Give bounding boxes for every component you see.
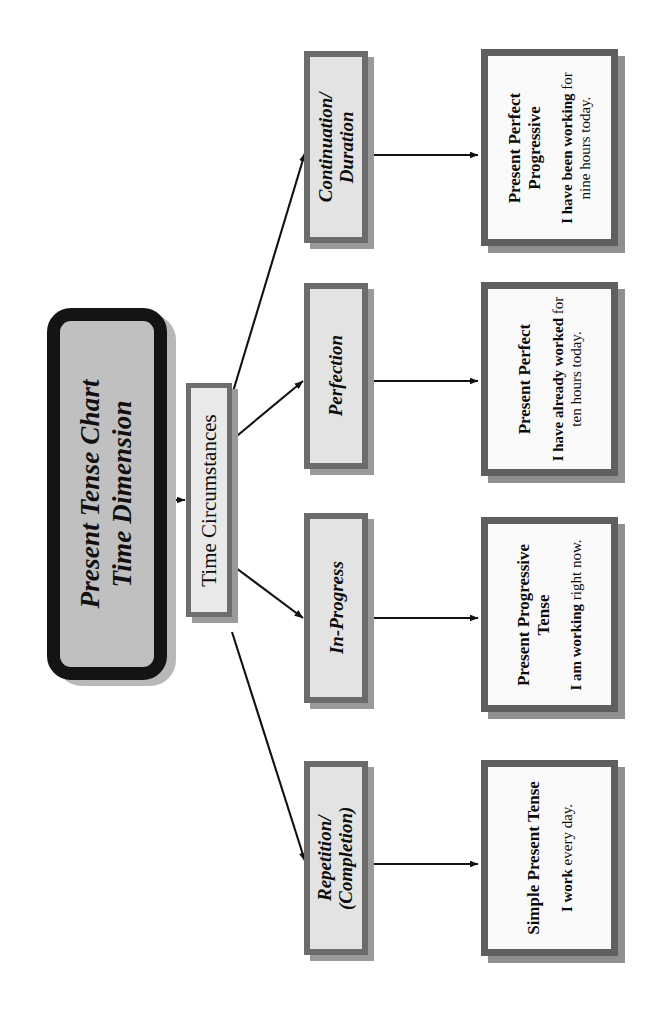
edge-root-to-inprogress [232, 565, 303, 618]
category-box-continuation: Continuation/ Duration [304, 51, 368, 243]
tense-example: I have been working for nine hours today… [558, 72, 594, 224]
category-label-line-2: Duration [336, 92, 357, 202]
category-label-line-1: Repetition/ [315, 806, 336, 909]
tense-box-content: Present Perfect I have already worked fo… [515, 297, 585, 462]
diagram-canvas: Present Tense Chart Time Dimension Time … [0, 0, 665, 1016]
root-node-label: Time Circumstances [197, 414, 222, 586]
tense-title-line-1: Simple Present Tense [524, 781, 544, 935]
tense-example-line-2: nine hours today. [576, 72, 594, 224]
tense-example-bold: I work [558, 869, 574, 912]
category-label-line-1: Continuation/ [315, 92, 336, 202]
category-box-repetition: Repetition/ (Completion) [304, 761, 368, 955]
edge-root-to-continuation [232, 153, 305, 395]
tense-example-rest: for [549, 297, 565, 318]
category-label: Perfection [325, 335, 346, 416]
category-label: Continuation/ Duration [315, 92, 358, 202]
tense-title: Present Perfect Progressive [505, 72, 544, 224]
tense-example: I am working right now. [567, 539, 585, 690]
category-box-perfection: Perfection [304, 283, 368, 469]
category-box-inprogress: In-Progress [304, 513, 368, 703]
tense-example-bold: I have already worked [549, 318, 565, 461]
tense-example-rest: every day. [558, 804, 574, 869]
title-text: Present Tense Chart Time Dimension [75, 379, 139, 608]
tense-example-rest: right now. [568, 539, 584, 603]
category-label-line-1: Perfection [325, 335, 346, 416]
tense-box-content: Present Progressive Tense I am working r… [514, 539, 585, 690]
tense-example-line-1: I work every day. [557, 781, 575, 935]
category-label-line-1: In-Progress [325, 562, 346, 655]
category-label-line-2: (Completion) [336, 806, 357, 909]
tense-example-bold: I am working [568, 603, 584, 690]
category-label: Repetition/ (Completion) [315, 806, 358, 909]
tense-example-line-1: I have already worked for [548, 297, 566, 462]
tense-title: Present Progressive Tense [514, 539, 553, 690]
edge-root-to-perfection [232, 381, 303, 440]
tense-box-content: Simple Present Tense I work every day. [524, 781, 576, 935]
edge-root-to-repetition [232, 632, 305, 861]
tense-title-line-1: Present Perfect [505, 72, 525, 224]
tense-example-bold: I have been working [559, 93, 575, 223]
tense-title-line-1: Present Progressive [514, 539, 534, 690]
tense-box-present-perfect-progressive: Present Perfect Progressive I have been … [481, 49, 618, 246]
tense-example: I work every day. [557, 781, 575, 935]
tense-example-rest: for [559, 72, 575, 93]
tense-box-content: Present Perfect Progressive I have been … [505, 72, 594, 224]
title-line-2: Time Dimension [107, 379, 139, 608]
tense-box-present-perfect: Present Perfect I have already worked fo… [481, 282, 618, 476]
tense-box-present-progressive: Present Progressive Tense I am working r… [481, 517, 618, 712]
tense-title-line-2: Progressive [525, 72, 545, 224]
title-line-1: Present Tense Chart [75, 379, 107, 608]
tense-title-line-1: Present Perfect [515, 297, 535, 462]
tense-example-line-1: I am working right now. [567, 539, 585, 690]
title-box: Present Tense Chart Time Dimension [47, 308, 167, 680]
tense-box-simple-present: Simple Present Tense I work every day. [481, 760, 618, 956]
category-label: In-Progress [325, 562, 346, 655]
tense-title: Present Perfect [515, 297, 535, 462]
tense-title-line-2: Tense [534, 539, 554, 690]
tense-example-line-2: ten hours today. [566, 297, 584, 462]
tense-example: I have already worked for ten hours toda… [548, 297, 584, 462]
tense-title: Simple Present Tense [524, 781, 544, 935]
tense-example-line-1: I have been working for [558, 72, 576, 224]
root-node: Time Circumstances [186, 383, 232, 617]
